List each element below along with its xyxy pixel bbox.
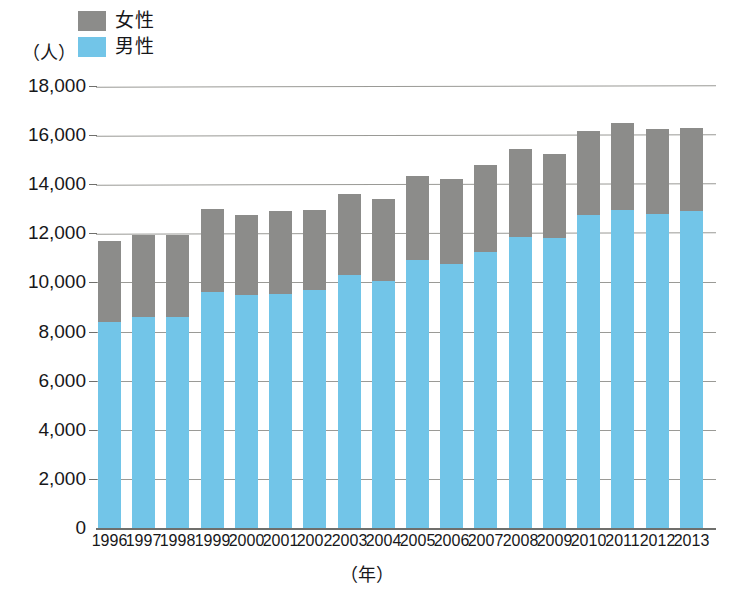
- bar-group: [372, 199, 395, 528]
- bar-segment-male: [646, 214, 669, 528]
- bar-group: [235, 215, 258, 528]
- bar-segment-male: [201, 292, 224, 528]
- bar-group: [98, 241, 121, 528]
- x-axis-tick-label: 2007: [466, 532, 506, 550]
- bar-group: [338, 194, 361, 528]
- bar-group: [611, 123, 634, 528]
- bar-segment-male: [235, 295, 258, 528]
- bar-segment-female: [132, 235, 155, 317]
- bar-segment-male: [440, 264, 463, 528]
- bar-segment-female: [98, 241, 121, 322]
- bar-segment-female: [235, 215, 258, 295]
- legend-swatch-male: [78, 37, 106, 57]
- bar-segment-male: [543, 238, 566, 528]
- bar-segment-female: [680, 128, 703, 211]
- legend-item-female: 女性: [78, 8, 228, 34]
- y-axis-unit-label: （人）: [22, 38, 76, 64]
- y-axis-tick-label: 18,000: [28, 75, 86, 97]
- bar-segment-female: [577, 131, 600, 214]
- bar-group: [680, 128, 703, 528]
- bar-segment-female: [201, 209, 224, 292]
- bar-group: [166, 235, 189, 528]
- bar-segment-male: [303, 290, 326, 528]
- x-axis-unit-label: （年）: [0, 560, 734, 586]
- bar-segment-female: [543, 154, 566, 239]
- bar-segment-male: [132, 317, 155, 528]
- bar-segment-male: [509, 237, 532, 528]
- x-axis-tick-label: 2002: [295, 532, 335, 550]
- bar-group: [543, 154, 566, 528]
- y-axis-tick-label: 12,000: [28, 222, 86, 244]
- bar-group: [474, 165, 497, 528]
- y-axis-tick-labels: 02,0004,0006,0008,00010,00012,00014,0001…: [0, 86, 90, 528]
- y-axis-tick-label: 6,000: [38, 370, 86, 392]
- bar-group: [509, 149, 532, 528]
- y-axis-tick-label: 14,000: [28, 173, 86, 195]
- bar-segment-female: [372, 199, 395, 281]
- y-axis-tick-label: 4,000: [38, 419, 86, 441]
- x-axis-tick-label: 2011: [603, 532, 643, 550]
- gridline: [96, 528, 716, 530]
- bar-segment-male: [269, 294, 292, 529]
- bar-segment-female: [440, 179, 463, 264]
- chart-legend: 女性 男性: [78, 8, 228, 60]
- bar-segment-female: [646, 129, 669, 214]
- bar-segment-male: [680, 211, 703, 528]
- bar-segment-male: [406, 260, 429, 528]
- bar-segment-male: [166, 317, 189, 528]
- bar-segment-male: [577, 215, 600, 528]
- bar-segment-female: [406, 176, 429, 261]
- legend-item-male: 男性: [78, 34, 228, 60]
- x-axis-tick-label: 2013: [672, 532, 712, 550]
- bar-group: [406, 176, 429, 528]
- bar-segment-female: [269, 211, 292, 293]
- bar-segment-female: [509, 149, 532, 237]
- bar-segment-male: [338, 275, 361, 528]
- bar-segment-female: [303, 210, 326, 290]
- bar-segment-female: [611, 123, 634, 210]
- legend-label-male: 男性: [115, 37, 154, 57]
- bar-segment-female: [474, 165, 497, 252]
- bar-segment-male: [611, 210, 634, 528]
- legend-swatch-female: [78, 11, 106, 31]
- bar-segment-male: [474, 252, 497, 528]
- y-axis-tick-label: 16,000: [28, 124, 86, 146]
- bar-segment-female: [166, 235, 189, 317]
- legend-label-female: 女性: [115, 11, 154, 31]
- stacked-bar-chart: 女性 男性 （人） 02,0004,0006,0008,00010,00012,…: [0, 0, 734, 600]
- bar-group: [303, 210, 326, 528]
- bar-group: [646, 129, 669, 528]
- y-axis-tick-label: 0: [75, 517, 86, 539]
- bar-segment-male: [98, 322, 121, 528]
- bar-segment-female: [338, 194, 361, 275]
- y-axis-tick-label: 10,000: [28, 271, 86, 293]
- bar-group: [201, 209, 224, 528]
- plot-area: [96, 86, 716, 528]
- bar-group: [440, 179, 463, 528]
- bar-group: [269, 211, 292, 528]
- bar-group: [577, 131, 600, 528]
- bars-container: [96, 86, 716, 528]
- bar-segment-male: [372, 281, 395, 528]
- y-axis-tick-label: 2,000: [38, 468, 86, 490]
- x-axis-tick-label: 1998: [158, 532, 198, 550]
- x-axis-tick-labels: 1996199719981999200020012002200320042005…: [96, 532, 716, 558]
- y-axis-tick-label: 8,000: [38, 321, 86, 343]
- bar-group: [132, 235, 155, 528]
